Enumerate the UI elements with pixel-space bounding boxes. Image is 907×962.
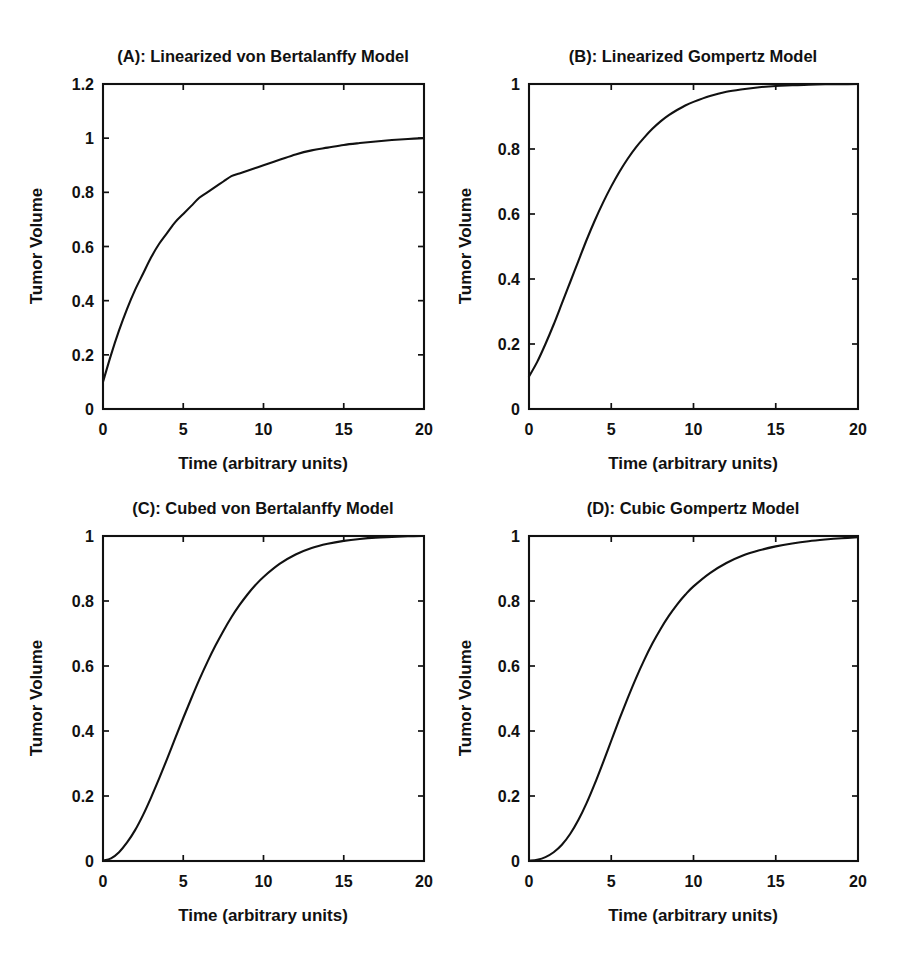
panel-d-frame [529, 536, 858, 861]
y-tick-label: 0.8 [498, 141, 520, 158]
panel-c-title: (C): Cubed von Bertalanffy Model [132, 499, 393, 517]
x-tick-label: 5 [179, 873, 188, 890]
panel-a-frame [103, 84, 424, 409]
y-tick-label: 0.6 [72, 658, 94, 675]
panel-c-svg: (C): Cubed von Bertalanffy Model 0510152… [0, 492, 455, 942]
panel-c-tick-labels: 0510152000.20.40.60.81 [72, 528, 433, 890]
y-tick-label: 0 [511, 401, 520, 418]
y-tick-label: 1 [85, 528, 94, 545]
y-tick-label: 0.8 [72, 184, 94, 201]
x-tick-label: 15 [335, 421, 353, 438]
x-tick-label: 5 [179, 421, 188, 438]
panel-c: (C): Cubed von Bertalanffy Model 0510152… [0, 492, 455, 942]
y-tick-label: 0.6 [72, 239, 94, 256]
x-tick-label: 5 [607, 873, 616, 890]
x-tick-label: 15 [335, 873, 353, 890]
y-tick-label: 0 [511, 853, 520, 870]
panel-b-frame [529, 84, 858, 409]
y-tick-label: 1.2 [72, 76, 94, 93]
panel-a-ylabel: Tumor Volume [27, 188, 46, 305]
panel-d: (D): Cubic Gompertz Model 0510152000.20.… [445, 492, 907, 942]
x-tick-label: 20 [415, 873, 433, 890]
panel-b-ticks [529, 84, 858, 409]
x-tick-label: 20 [849, 421, 867, 438]
panel-a-curve [103, 138, 424, 382]
x-tick-label: 10 [685, 421, 703, 438]
panel-c-ticks [103, 536, 424, 861]
y-tick-label: 0.6 [498, 206, 520, 223]
panel-d-tick-labels: 0510152000.20.40.60.81 [498, 528, 867, 890]
y-tick-label: 0.4 [498, 723, 520, 740]
y-tick-label: 0.6 [498, 658, 520, 675]
y-tick-label: 0.4 [72, 293, 94, 310]
panel-d-curve [529, 537, 858, 860]
x-tick-label: 0 [525, 421, 534, 438]
panel-d-ylabel: Tumor Volume [456, 640, 475, 757]
y-tick-label: 0.4 [72, 723, 94, 740]
panel-c-curve [103, 536, 424, 861]
y-tick-label: 0.2 [72, 347, 94, 364]
panel-b-tick-labels: 0510152000.20.40.60.81 [498, 76, 867, 438]
panel-b-title: (B): Linearized Gompertz Model [569, 47, 817, 65]
y-tick-label: 0 [85, 853, 94, 870]
panel-b-svg: (B): Linearized Gompertz Model 051015200… [445, 40, 907, 490]
panel-a-tick-labels: 0510152000.20.40.60.811.2 [72, 76, 433, 438]
panel-a-svg: (A): Linearized von Bertalanffy Model 05… [0, 40, 455, 490]
panel-d-xlabel: Time (arbitrary units) [608, 906, 778, 925]
x-tick-label: 10 [255, 421, 273, 438]
x-tick-label: 0 [525, 873, 534, 890]
panel-d-svg: (D): Cubic Gompertz Model 0510152000.20.… [445, 492, 907, 942]
panel-a-xlabel: Time (arbitrary units) [178, 454, 348, 473]
x-tick-label: 10 [255, 873, 273, 890]
panel-b-xlabel: Time (arbitrary units) [608, 454, 778, 473]
y-tick-label: 0.2 [498, 788, 520, 805]
x-tick-label: 20 [849, 873, 867, 890]
panel-b-ylabel: Tumor Volume [456, 188, 475, 305]
panel-d-title: (D): Cubic Gompertz Model [587, 499, 800, 517]
panel-b: (B): Linearized Gompertz Model 051015200… [445, 40, 907, 490]
panel-c-frame [103, 536, 424, 861]
panel-a-ticks [103, 84, 424, 409]
panel-d-ticks [529, 536, 858, 861]
panel-a: (A): Linearized von Bertalanffy Model 05… [0, 40, 455, 490]
x-tick-label: 15 [767, 873, 785, 890]
y-tick-label: 0.2 [498, 336, 520, 353]
y-tick-label: 0.4 [498, 271, 520, 288]
panel-d-plot: 0510152000.20.40.60.81 [498, 528, 867, 890]
y-tick-label: 1 [511, 76, 520, 93]
y-tick-label: 0.2 [72, 788, 94, 805]
panel-c-plot: 0510152000.20.40.60.81 [72, 528, 433, 890]
x-tick-label: 5 [607, 421, 616, 438]
panel-b-plot: 0510152000.20.40.60.81 [498, 76, 867, 438]
x-tick-label: 20 [415, 421, 433, 438]
panel-b-curve [529, 84, 858, 377]
figure-canvas: (A): Linearized von Bertalanffy Model 05… [0, 0, 907, 962]
y-tick-label: 0.8 [498, 593, 520, 610]
panel-c-xlabel: Time (arbitrary units) [178, 906, 348, 925]
x-tick-label: 10 [685, 873, 703, 890]
panel-a-title: (A): Linearized von Bertalanffy Model [117, 47, 409, 65]
x-tick-label: 0 [99, 873, 108, 890]
x-tick-label: 0 [99, 421, 108, 438]
panel-c-ylabel: Tumor Volume [27, 640, 46, 757]
y-tick-label: 1 [85, 130, 94, 147]
panel-a-plot: 0510152000.20.40.60.811.2 [72, 76, 433, 438]
y-tick-label: 1 [511, 528, 520, 545]
x-tick-label: 15 [767, 421, 785, 438]
y-tick-label: 0.8 [72, 593, 94, 610]
y-tick-label: 0 [85, 401, 94, 418]
